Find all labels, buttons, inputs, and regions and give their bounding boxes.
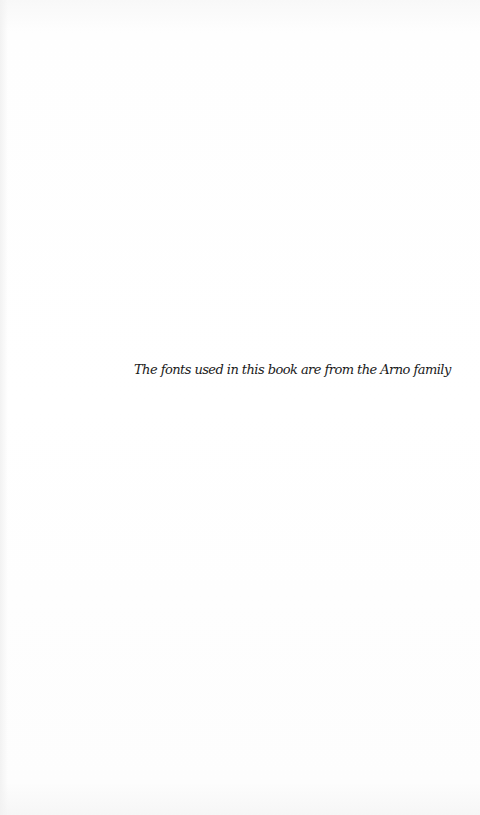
colophon-text: The fonts used in this book are from the…	[134, 361, 394, 379]
book-page: The fonts used in this book are from the…	[0, 0, 480, 815]
